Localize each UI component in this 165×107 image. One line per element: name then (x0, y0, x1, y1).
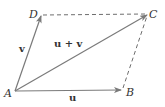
point-label-d: D (28, 8, 38, 21)
point-label-c: C (149, 8, 158, 21)
point-label-b: B (125, 86, 134, 99)
vector-label-v: v (18, 43, 26, 54)
dashed-edge-dc (43, 14, 146, 15)
vector-u-arrow (15, 90, 121, 91)
vector-label-u: u (69, 92, 76, 103)
parallelogram-diagram: D C A B v u + v u (0, 0, 165, 107)
point-label-a: A (3, 87, 12, 100)
vector-sum-arrow (15, 15, 147, 91)
vector-label-sum: u + v (54, 38, 84, 49)
